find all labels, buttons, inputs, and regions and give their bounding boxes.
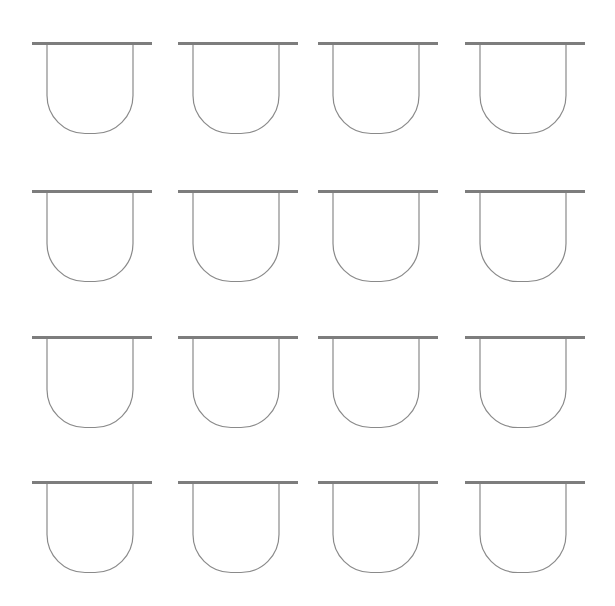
u-vessel-outline: [47, 44, 133, 134]
bar-over-u-vessel-icon: [315, 333, 441, 434]
glyph-3-1: [29, 333, 155, 434]
bar-over-u-vessel-icon: [462, 187, 588, 288]
glyph-4-3: [315, 478, 441, 579]
bar-over-u-vessel-icon: [175, 187, 301, 288]
glyph-4-1: [29, 478, 155, 579]
bar-over-u-vessel-icon: [462, 333, 588, 434]
glyph-1-4: [462, 39, 588, 140]
u-vessel-outline: [193, 338, 279, 428]
u-vessel-outline: [480, 338, 566, 428]
u-vessel-outline: [47, 192, 133, 282]
glyph-3-3: [315, 333, 441, 434]
glyph-1-2: [175, 39, 301, 140]
u-vessel-outline: [333, 338, 419, 428]
glyph-2-4: [462, 187, 588, 288]
bar-over-u-vessel-icon: [29, 187, 155, 288]
glyph-1-3: [315, 39, 441, 140]
page-canvas: [0, 0, 615, 606]
u-vessel-outline: [333, 44, 419, 134]
u-vessel-outline: [333, 483, 419, 573]
u-vessel-outline: [193, 192, 279, 282]
bar-over-u-vessel-icon: [29, 39, 155, 140]
u-vessel-outline: [47, 483, 133, 573]
glyph-2-3: [315, 187, 441, 288]
bar-over-u-vessel-icon: [315, 187, 441, 288]
bar-over-u-vessel-icon: [175, 39, 301, 140]
glyph-2-1: [29, 187, 155, 288]
u-vessel-outline: [480, 192, 566, 282]
bar-over-u-vessel-icon: [29, 333, 155, 434]
bar-over-u-vessel-icon: [462, 478, 588, 579]
u-vessel-outline: [333, 192, 419, 282]
glyph-3-4: [462, 333, 588, 434]
glyph-4-2: [175, 478, 301, 579]
bar-over-u-vessel-icon: [29, 478, 155, 579]
glyph-3-2: [175, 333, 301, 434]
bar-over-u-vessel-icon: [315, 39, 441, 140]
glyph-2-2: [175, 187, 301, 288]
bar-over-u-vessel-icon: [315, 478, 441, 579]
u-vessel-outline: [193, 44, 279, 134]
bar-over-u-vessel-icon: [175, 478, 301, 579]
glyph-grid: [0, 0, 615, 606]
bar-over-u-vessel-icon: [175, 333, 301, 434]
bar-over-u-vessel-icon: [462, 39, 588, 140]
u-vessel-outline: [480, 44, 566, 134]
glyph-1-1: [29, 39, 155, 140]
u-vessel-outline: [193, 483, 279, 573]
u-vessel-outline: [47, 338, 133, 428]
u-vessel-outline: [480, 483, 566, 573]
glyph-4-4: [462, 478, 588, 579]
